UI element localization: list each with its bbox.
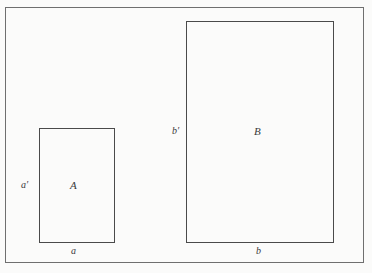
rectangle-a-name-label: A: [70, 180, 77, 191]
rectangle-b-width-label: b: [256, 246, 261, 256]
figure-canvas: A a′ a B b′ b: [0, 0, 372, 273]
rectangle-a-height-label: a′: [21, 180, 28, 190]
rectangle-b-height-label: b′: [172, 126, 179, 136]
rectangle-a-width-label: a: [71, 246, 76, 256]
rectangle-b-name-label: B: [254, 126, 261, 137]
rectangle-a: [39, 128, 115, 243]
